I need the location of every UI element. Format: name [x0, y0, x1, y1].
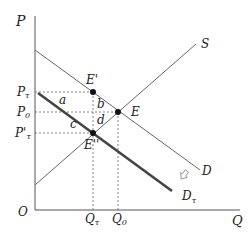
- point-e-prime-label: E': [85, 73, 98, 87]
- point-e-prime: [90, 89, 96, 95]
- dashed-guides: [35, 92, 118, 210]
- shift-arrow-icon: [178, 169, 190, 182]
- point-e-double-prime-label: E'': [83, 138, 99, 152]
- tax-demand-label: Dτ: [181, 189, 197, 205]
- origin-label: O: [18, 205, 28, 219]
- y-axis-label: P: [15, 13, 26, 29]
- region-d-label: d: [97, 113, 105, 127]
- region-c-label: c: [70, 117, 77, 131]
- diagram-canvas: P Q O S D Dτ E' E E'' a b c d Pτ P0 P'τ …: [0, 0, 251, 236]
- price-pt-prime-label: P'τ: [14, 126, 31, 141]
- demand-label: D: [201, 164, 212, 178]
- quantity-qt-label: Qτ: [85, 212, 100, 227]
- supply-label: S: [201, 37, 209, 51]
- quantity-q0-label: Q0: [112, 212, 127, 227]
- supply-curve: [35, 44, 196, 185]
- region-a-label: a: [59, 93, 66, 107]
- tax-incidence-diagram: P Q O S D Dτ E' E E'' a b c d Pτ P0 P'τ …: [0, 0, 251, 236]
- price-p0-label: P0: [16, 105, 30, 120]
- x-axis-label: Q: [232, 213, 243, 228]
- tax-demand-curve: [38, 93, 172, 191]
- price-pt-label: Pτ: [16, 85, 30, 100]
- point-e-double-prime: [90, 130, 96, 136]
- point-e-label: E: [130, 105, 140, 119]
- region-b-label: b: [97, 97, 105, 111]
- point-e: [115, 109, 121, 115]
